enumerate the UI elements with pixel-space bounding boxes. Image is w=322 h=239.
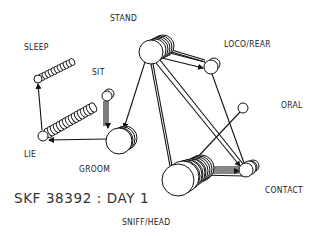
label-stand: STAND [110, 14, 137, 23]
node-sit [102, 91, 112, 101]
node-loco-rear [204, 58, 220, 74]
node-lie-self-loop [43, 102, 98, 139]
diagram-title: SKF 38392 : DAY 1 [14, 190, 149, 206]
label-loco-rear: LOCO/REAR [224, 40, 271, 49]
node-sleep [34, 75, 42, 83]
edge-sit-groom [104, 101, 108, 128]
edge-groom-lie [49, 139, 106, 140]
label-lie: LIE [24, 150, 36, 159]
node-lie [38, 131, 48, 141]
label-groom: GROOM [79, 165, 110, 174]
edge-lie-sleep [38, 84, 42, 130]
node-oral [238, 103, 248, 113]
label-oral: ORAL [281, 101, 303, 110]
node-sniff-head [162, 155, 214, 196]
label-sit: SIT [92, 68, 105, 77]
label-contact: CONTACT [265, 186, 303, 195]
node-groom [106, 126, 137, 154]
node-sleep-self-loop [38, 58, 76, 82]
edge-loco-contact [212, 74, 244, 163]
edge-stand-contact-2 [160, 60, 243, 164]
label-sniff-head: SNIFF/HEAD [122, 218, 170, 227]
label-sleep: SLEEP [24, 43, 49, 52]
edge-stand-groom [124, 62, 145, 128]
